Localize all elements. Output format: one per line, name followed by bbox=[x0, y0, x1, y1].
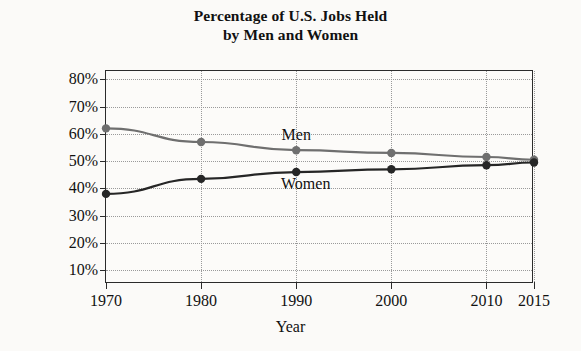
series-line-men bbox=[106, 128, 534, 159]
data-point-men bbox=[292, 146, 300, 154]
x-tick-label: 1990 bbox=[280, 292, 312, 310]
y-tick-label: 60% bbox=[69, 124, 98, 142]
data-point-women bbox=[530, 158, 538, 166]
y-tick-label: 10% bbox=[69, 261, 98, 279]
data-point-men bbox=[482, 153, 490, 161]
x-tick-label: 2000 bbox=[375, 292, 407, 310]
chart-title: Percentage of U.S. Jobs Held by Men and … bbox=[0, 6, 581, 44]
y-tick-label: 30% bbox=[69, 206, 98, 224]
gridline-vertical bbox=[534, 71, 535, 282]
x-tick-label: 1980 bbox=[185, 292, 217, 310]
data-point-men bbox=[387, 149, 395, 157]
data-point-women bbox=[482, 161, 490, 169]
x-tick-label: 2010 bbox=[470, 292, 502, 310]
y-tick-label: 40% bbox=[69, 179, 98, 197]
data-point-women bbox=[197, 175, 205, 183]
y-tick-label: 20% bbox=[69, 234, 98, 252]
x-tick-label: 1970 bbox=[90, 292, 122, 310]
y-tick-label: 70% bbox=[69, 97, 98, 115]
y-tick-label: 80% bbox=[69, 70, 98, 88]
data-point-men bbox=[102, 124, 110, 132]
x-tick-label: 2015 bbox=[518, 292, 550, 310]
chart-title-line-1: Percentage of U.S. Jobs Held bbox=[0, 6, 581, 25]
series-label-women: Women bbox=[281, 175, 330, 193]
chart-title-line-2: by Men and Women bbox=[0, 25, 581, 44]
plot-area: 10%20%30%40%50%60%70%80% 197019801990200… bbox=[105, 70, 533, 283]
y-tick-label: 50% bbox=[69, 152, 98, 170]
x-axis-title: Year bbox=[0, 318, 581, 336]
series-label-men: Men bbox=[282, 126, 311, 144]
x-tick-mark bbox=[534, 282, 535, 289]
data-point-women bbox=[387, 165, 395, 173]
data-point-men bbox=[197, 138, 205, 146]
data-point-women bbox=[102, 190, 110, 198]
chart-figure: Percentage of U.S. Jobs Held by Men and … bbox=[0, 0, 581, 351]
